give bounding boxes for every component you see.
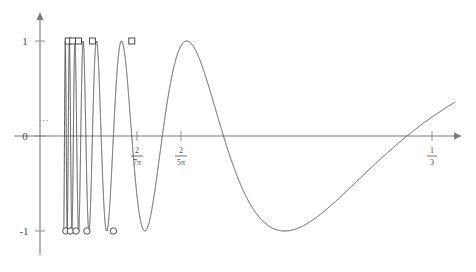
x-tick-1-numerator: 2 [135, 146, 139, 155]
maximum-marker-3 [89, 38, 95, 44]
x-tick-label-2-over-5pi: 2 5π [175, 146, 187, 167]
maximum-marker-1 [70, 38, 76, 44]
maximum-marker-4 [129, 38, 135, 44]
x-axis-arrowhead [454, 133, 462, 140]
maximum-marker-2 [76, 38, 82, 44]
minimum-marker-3 [84, 228, 90, 234]
y-tick-label-1: 1 [22, 35, 28, 47]
minima-marker-group [63, 228, 117, 234]
plot-figure: 1 0 -1 ⋯ 2 7π 2 5π 1 3 [0, 0, 476, 272]
minimum-marker-2 [73, 228, 79, 234]
x-tick-2-denominator: 5π [177, 158, 185, 167]
sin-one-over-x-chart: 1 0 -1 ⋯ 2 7π 2 5π 1 3 [0, 0, 476, 272]
y-axis-arrowhead [37, 12, 44, 20]
y-axis [37, 12, 44, 255]
minimum-marker-4 [110, 228, 116, 234]
x-tick-3-numerator: 1 [430, 146, 434, 155]
oscillation-ellipsis: ⋯ [38, 115, 51, 127]
y-tick-label-0: 0 [22, 130, 28, 142]
x-tick-label-1-over-3: 1 3 [427, 146, 437, 167]
x-tick-2-numerator: 2 [179, 146, 183, 155]
y-tick-label-minus-1: -1 [19, 225, 28, 237]
maxima-marker-group [65, 38, 135, 44]
x-tick-3-denominator: 3 [430, 158, 434, 167]
